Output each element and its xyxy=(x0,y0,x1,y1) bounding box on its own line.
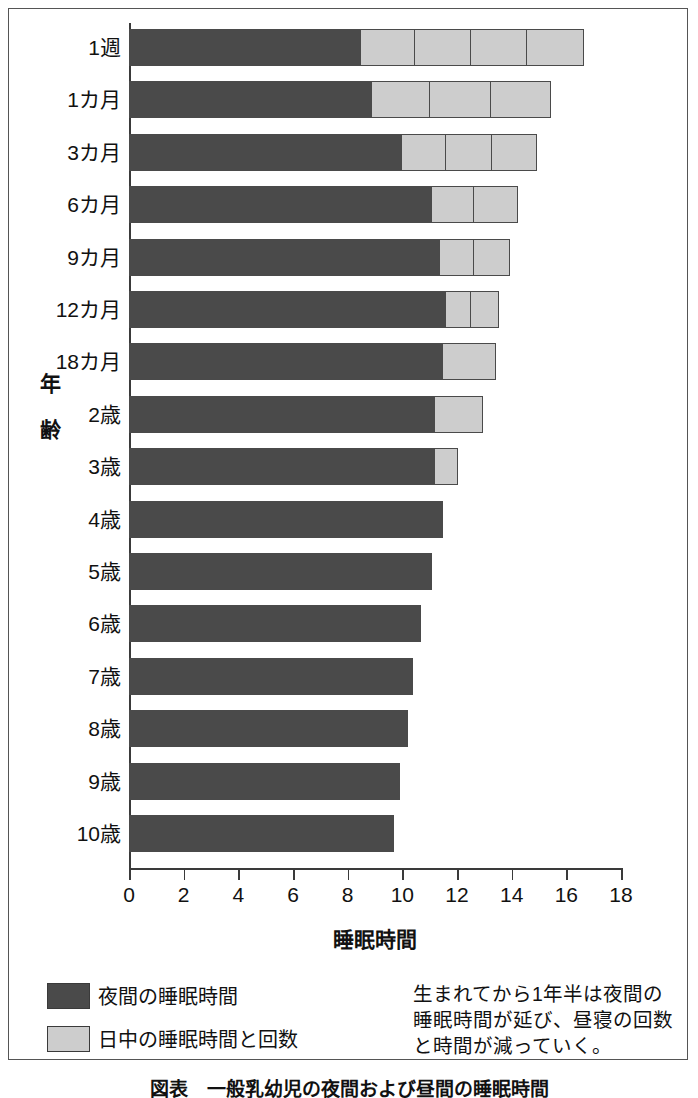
bar-row[interactable] xyxy=(129,658,413,695)
y-axis-tick-label: 9歳 xyxy=(88,763,121,800)
y-axis-tick-label: 1週 xyxy=(88,29,121,66)
annotation-line-3: と時間が減っていく。 xyxy=(413,1033,673,1059)
y-axis-tick-label: 7歳 xyxy=(88,658,121,695)
x-axis-tick xyxy=(402,869,404,880)
figure-caption: 図表 一般乳幼児の夜間および昼間の睡眠時間 xyxy=(0,1074,698,1098)
bar-segment-night-sleep[interactable] xyxy=(129,448,435,485)
bar-segment-nap[interactable] xyxy=(429,81,491,118)
legend-item-night: 夜間の睡眠時間 xyxy=(47,981,367,1010)
y-axis-tick-label: 12カ月 xyxy=(56,291,121,328)
bar-segment-nap[interactable] xyxy=(434,448,459,485)
x-axis-tick xyxy=(129,869,131,880)
bar-row[interactable] xyxy=(129,29,584,66)
x-axis-tick-label: 14 xyxy=(492,883,532,907)
x-axis-title: 睡眠時間 xyxy=(129,923,621,953)
bar-segment-night-sleep[interactable] xyxy=(129,763,400,800)
x-axis: 024681012141618 xyxy=(129,868,621,869)
x-axis-line xyxy=(129,868,623,870)
annotation-line-2: 睡眠時間が延び、昼寝の回数 xyxy=(413,1007,673,1033)
x-axis-tick-label: 10 xyxy=(382,883,422,907)
x-axis-tick-label: 8 xyxy=(328,883,368,907)
bar-segment-night-sleep[interactable] xyxy=(129,658,413,695)
bar-segment-night-sleep[interactable] xyxy=(129,134,402,171)
bar-row[interactable] xyxy=(129,815,394,852)
bar-segment-nap[interactable] xyxy=(434,396,483,433)
bar-row[interactable] xyxy=(129,343,496,380)
legend-swatch-night-icon xyxy=(47,983,90,1009)
bar-row[interactable] xyxy=(129,186,518,223)
bar-segment-night-sleep[interactable] xyxy=(129,710,408,747)
bar-segment-night-sleep[interactable] xyxy=(129,815,394,852)
y-axis-tick-label: 18カ月 xyxy=(56,343,121,380)
x-axis-tick-label: 16 xyxy=(546,883,586,907)
bar-segment-nap[interactable] xyxy=(491,134,538,171)
x-axis-tick xyxy=(348,869,350,880)
bar-row[interactable] xyxy=(129,291,499,328)
bar-row[interactable] xyxy=(129,448,458,485)
bar-segment-night-sleep[interactable] xyxy=(129,396,435,433)
x-axis-tick-label: 12 xyxy=(437,883,477,907)
bar-segment-night-sleep[interactable] xyxy=(129,605,421,642)
y-axis-tick-label: 1カ月 xyxy=(67,81,121,118)
y-axis-tick-label: 9カ月 xyxy=(67,239,121,276)
legend-label-nap: 日中の睡眠時間と回数 xyxy=(98,1024,298,1053)
bar-segment-nap[interactable] xyxy=(431,186,475,223)
bar-segment-nap[interactable] xyxy=(360,29,416,66)
y-axis-tick-label: 2歳 xyxy=(88,396,121,433)
bar-segment-night-sleep[interactable] xyxy=(129,29,361,66)
y-axis-tick-label: 6カ月 xyxy=(67,186,121,223)
bar-row[interactable] xyxy=(129,501,443,538)
x-axis-tick xyxy=(457,869,459,880)
bar-segment-night-sleep[interactable] xyxy=(129,553,432,590)
bar-segment-nap[interactable] xyxy=(401,134,447,171)
bar-segment-nap[interactable] xyxy=(473,239,510,276)
y-axis-tick-label: 3カ月 xyxy=(67,134,121,171)
x-axis-tick xyxy=(184,869,186,880)
x-axis-tick-label: 6 xyxy=(273,883,313,907)
bar-segment-night-sleep[interactable] xyxy=(129,343,443,380)
bar-segment-nap[interactable] xyxy=(414,29,472,66)
bar-row[interactable] xyxy=(129,396,483,433)
bar-segment-nap[interactable] xyxy=(371,81,431,118)
bar-row[interactable] xyxy=(129,763,400,800)
y-axis-tick-label: 3歳 xyxy=(88,448,121,485)
bar-segment-nap[interactable] xyxy=(439,239,475,276)
chart-figure-frame: 年 齢 1週1カ月3カ月6カ月9カ月12カ月18カ月2歳3歳4歳5歳6歳7歳8歳… xyxy=(8,8,688,1060)
bar-row[interactable] xyxy=(129,553,432,590)
x-axis-tick xyxy=(621,869,623,880)
bar-row[interactable] xyxy=(129,134,537,171)
bar-segment-night-sleep[interactable] xyxy=(129,501,443,538)
bar-row[interactable] xyxy=(129,239,510,276)
y-axis-tick-label: 8歳 xyxy=(88,710,121,747)
plot-area xyxy=(129,23,621,868)
bar-row[interactable] xyxy=(129,605,421,642)
x-axis-tick xyxy=(512,869,514,880)
bar-segment-night-sleep[interactable] xyxy=(129,81,372,118)
bar-segment-nap[interactable] xyxy=(470,291,499,328)
bar-segment-nap[interactable] xyxy=(526,29,584,66)
bar-row[interactable] xyxy=(129,710,408,747)
x-axis-tick-label: 0 xyxy=(109,883,149,907)
x-axis-tick xyxy=(293,869,295,880)
chart-annotation: 生まれてから1年半は夜間の 睡眠時間が延び、昼寝の回数 と時間が減っていく。 xyxy=(413,981,673,1059)
chart-legend: 夜間の睡眠時間 日中の睡眠時間と回数 xyxy=(47,981,367,1067)
bar-segment-nap[interactable] xyxy=(442,343,497,380)
x-axis-tick xyxy=(238,869,240,880)
bar-segment-nap[interactable] xyxy=(473,186,518,223)
bar-segment-nap[interactable] xyxy=(445,291,472,328)
bar-segment-nap[interactable] xyxy=(470,29,528,66)
legend-item-nap: 日中の睡眠時間と回数 xyxy=(47,1024,367,1053)
bar-segment-night-sleep[interactable] xyxy=(129,291,446,328)
x-axis-tick xyxy=(566,869,568,880)
x-axis-tick-label: 18 xyxy=(601,883,641,907)
y-axis-tick-label: 6歳 xyxy=(88,605,121,642)
y-axis-tick-label: 5歳 xyxy=(88,553,121,590)
bar-segment-nap[interactable] xyxy=(445,134,492,171)
bar-row[interactable] xyxy=(129,81,551,118)
bar-segment-night-sleep[interactable] xyxy=(129,186,432,223)
y-axis-tick-labels: 1週1カ月3カ月6カ月9カ月12カ月18カ月2歳3歳4歳5歳6歳7歳8歳9歳10… xyxy=(9,23,121,868)
bar-segment-nap[interactable] xyxy=(490,81,552,118)
legend-swatch-nap-icon xyxy=(47,1026,90,1052)
bar-segment-night-sleep[interactable] xyxy=(129,239,441,276)
annotation-line-1: 生まれてから1年半は夜間の xyxy=(413,981,673,1007)
